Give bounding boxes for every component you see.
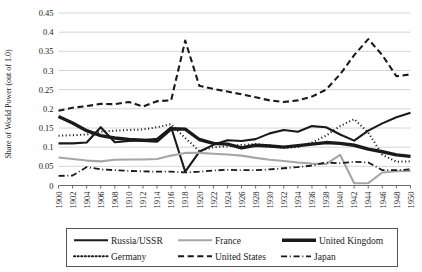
x-tick-label: 1928 [251,192,261,209]
x-tick-label: 1940 [335,192,345,209]
x-tick-label: 1922 [209,192,219,209]
y-tick-label: 0.4 [43,27,54,37]
chart-legend: Russia/USSRFranceUnited KingdomGermanyUn… [67,229,398,267]
y-tick-label: 0.05 [39,161,54,171]
legend-label-germany: Germany [111,252,147,262]
legend-label-japan: Japan [314,252,336,262]
x-tick-label: 1900 [54,192,64,209]
y-tick-label: 0.45 [39,8,54,18]
y-tick-label: 0.3 [43,66,54,76]
x-tick-label: 1936 [307,192,317,209]
x-tick-label: 1948 [392,192,402,209]
world-power-share-line-chart: 00.050.10.150.20.250.30.350.40.45 190019… [0,0,422,272]
data-series-group [59,39,411,183]
series-line-united-states [59,39,411,111]
series-line-united-kingdom [59,117,411,157]
x-tick-label: 1912 [138,192,148,209]
x-tick-label: 1950 [406,192,416,209]
x-tick-label: 1938 [321,192,331,209]
x-tick-label: 1926 [237,192,247,209]
legend-label-united-kingdom: United Kingdom [319,236,384,246]
x-tick-label: 1920 [195,192,205,209]
x-tick-label: 1924 [223,191,233,209]
series-line-japan [59,162,411,176]
x-tick-label: 1914 [152,191,162,209]
x-tick-label: 1918 [180,192,190,209]
x-tick-label: 1906 [96,192,106,209]
y-tick-label: 0.25 [39,85,54,95]
x-tick-label: 1944 [363,191,373,209]
legend-label-united-states: United States [215,252,266,262]
x-tick-label: 1932 [279,192,289,209]
chart-container: 00.050.10.150.20.250.30.350.40.45 190019… [0,0,422,272]
x-tick-label: 1904 [82,191,92,209]
x-tick-label: 1910 [124,192,134,209]
x-tick-label: 1916 [166,192,176,209]
x-tick-label: 1942 [349,192,359,209]
y-axis-tick-labels: 00.050.10.150.20.250.30.350.40.45 [39,8,55,191]
x-axis-tick-labels: 1900190219041906190819101912191419161918… [54,191,416,209]
x-tick-label: 1946 [378,192,388,209]
y-tick-label: 0 [49,181,53,191]
x-tick-label: 1908 [110,192,120,209]
x-tick-label: 1934 [293,191,303,209]
y-tick-label: 0.15 [39,123,54,133]
series-line-russia-ussr [59,113,411,172]
legend-label-russia-ussr: Russia/USSR [111,236,163,246]
legend-label-france: France [215,236,241,246]
y-tick-label: 0.35 [39,46,54,56]
x-tick-label: 1930 [265,192,275,209]
y-tick-label: 0.2 [43,104,54,114]
x-tick-label: 1902 [68,192,78,209]
y-axis-title: Share of World Power (out of 1.0) [4,49,13,159]
series-line-france [59,153,411,183]
y-tick-label: 0.1 [43,142,54,152]
